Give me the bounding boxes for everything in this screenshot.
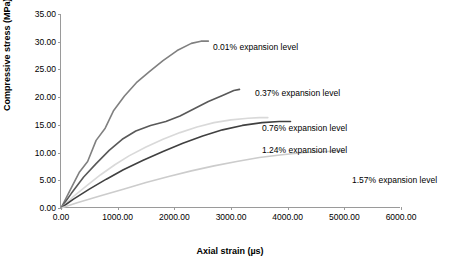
x-tick-label: 0.00 — [53, 212, 70, 222]
y-tick-mark — [58, 125, 61, 126]
series-annotation: 0.01% expansion level — [213, 42, 298, 52]
series-line — [61, 151, 344, 208]
y-tick-mark — [58, 153, 61, 154]
series-line — [61, 118, 268, 208]
y-tick-label: 25.00 — [35, 64, 56, 74]
x-tick-mark — [231, 207, 232, 210]
y-tick-label: 5.00 — [39, 175, 56, 185]
y-tick-label: 10.00 — [35, 148, 56, 158]
series-line — [61, 41, 208, 208]
y-tick-label: 15.00 — [35, 120, 56, 130]
chart-container: Compressive stress (MPa) Axial strain (µ… — [0, 0, 465, 271]
x-tick-mark — [61, 207, 62, 210]
y-tick-label: 35.00 — [35, 9, 56, 19]
series-annotation: 0.37% expansion level — [255, 88, 340, 98]
x-tick-mark — [288, 207, 289, 210]
x-axis-label: Axial strain (µs) — [60, 246, 400, 256]
series-annotation: 1.57% expansion level — [352, 175, 437, 185]
x-tick-label: 3000.00 — [216, 212, 247, 222]
x-tick-label: 4000.00 — [272, 212, 303, 222]
x-tick-label: 2000.00 — [159, 212, 190, 222]
x-tick-label: 5000.00 — [329, 212, 360, 222]
y-tick-mark — [58, 97, 61, 98]
y-tick-mark — [58, 180, 61, 181]
y-axis-label: Compressive stress (MPa) — [2, 0, 12, 111]
series-annotation: 1.24% expansion level — [262, 145, 347, 155]
y-tick-label: 30.00 — [35, 37, 56, 47]
y-tick-mark — [58, 14, 61, 15]
x-tick-mark — [401, 207, 402, 210]
series-annotation: 0.76% expansion level — [262, 123, 347, 133]
x-tick-label: 1000.00 — [102, 212, 133, 222]
x-tick-mark — [174, 207, 175, 210]
y-tick-label: 20.00 — [35, 92, 56, 102]
y-tick-mark — [58, 42, 61, 43]
x-tick-mark — [118, 207, 119, 210]
y-tick-mark — [58, 69, 61, 70]
x-tick-mark — [344, 207, 345, 210]
x-tick-label: 6000.00 — [386, 212, 417, 222]
